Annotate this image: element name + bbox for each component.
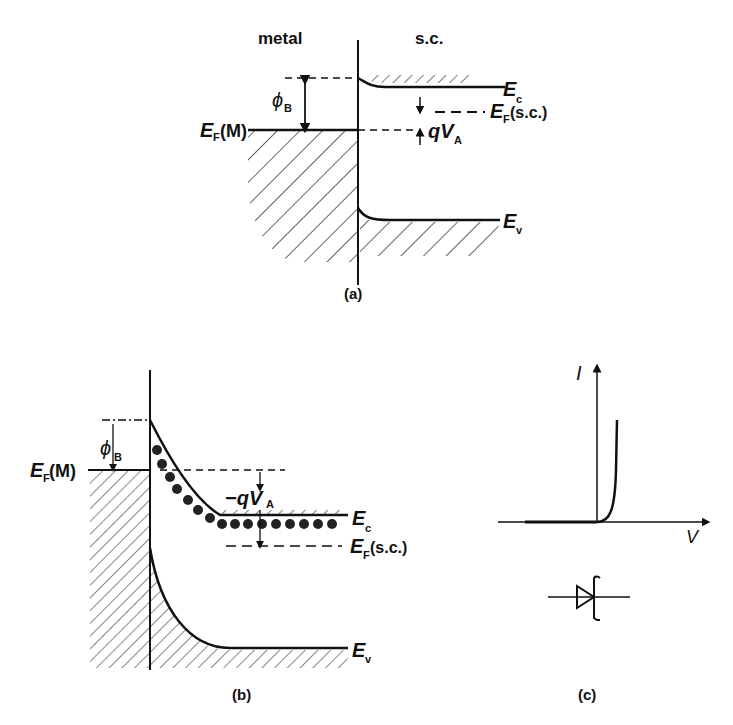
- panel-c: I V (c): [498, 362, 706, 703]
- ef-m-label: E: [200, 119, 214, 141]
- svg-text:v: v: [365, 653, 372, 665]
- svg-text:(s.c.): (s.c.): [370, 539, 407, 556]
- metal-label: metal: [258, 29, 302, 48]
- ef-sc-label: E: [490, 100, 504, 122]
- svg-text:B: B: [284, 102, 292, 114]
- svg-text:v: v: [516, 224, 523, 236]
- panel-b: ϕ B E F (M) −qV A E c E F (s.c.) E v (b): [30, 370, 407, 703]
- v-axis-label: V: [686, 527, 700, 547]
- caption-c: (c): [578, 686, 596, 703]
- ev-label: E: [503, 210, 517, 232]
- caption-a: (a): [344, 285, 362, 302]
- svg-text:F: F: [213, 131, 220, 143]
- svg-text:B: B: [114, 451, 122, 463]
- phi-b-symbol-b: ϕ: [100, 437, 111, 459]
- neg-qva-label: −qV: [225, 487, 264, 509]
- svg-text:(M): (M): [49, 461, 76, 481]
- i-axis-label: I: [576, 362, 582, 384]
- qva-label: qV: [428, 120, 455, 142]
- panel-a: metal s.c. ϕ B E F (M) E c E F (s.c.) qV…: [200, 29, 547, 302]
- svg-text:(s.c.): (s.c.): [510, 104, 547, 121]
- svg-text:F: F: [363, 549, 370, 561]
- svg-text:A: A: [454, 134, 462, 146]
- svg-text:(M): (M): [220, 121, 247, 141]
- metal-filled-states: [248, 130, 358, 262]
- valence-band-edge: [358, 208, 500, 220]
- ef-m-label-b: E: [30, 459, 44, 481]
- schottky-diode-symbol: [548, 576, 630, 620]
- ev-label-b: E: [352, 639, 366, 661]
- phi-b-symbol: ϕ: [272, 89, 283, 111]
- caption-b: (b): [232, 686, 251, 703]
- ec-label-b: E: [352, 507, 366, 529]
- semiconductor-label: s.c.: [415, 29, 443, 48]
- svg-text:c: c: [365, 522, 371, 534]
- schottky-diagram: metal s.c. ϕ B E F (M) E c E F (s.c.) qV…: [0, 0, 733, 725]
- ec-label: E: [503, 78, 517, 100]
- svg-text:A: A: [266, 498, 274, 510]
- iv-curve: [597, 420, 617, 522]
- ef-sc-label-b: E: [350, 535, 364, 557]
- svg-text:F: F: [503, 113, 510, 125]
